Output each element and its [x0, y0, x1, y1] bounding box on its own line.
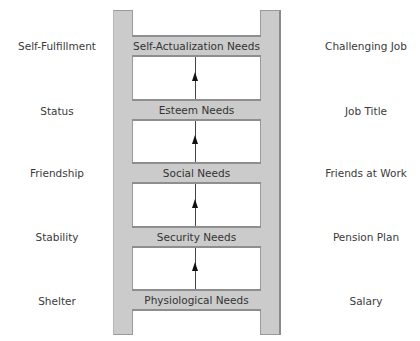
up-arrow-icon — [192, 199, 198, 208]
workplace-example-salary: Salary — [350, 295, 383, 307]
general-example-status: Status — [40, 105, 73, 117]
ladder-left-rail — [113, 10, 133, 335]
up-arrow-icon — [192, 262, 198, 271]
ladder-right-rail — [260, 10, 281, 335]
general-example-friendship: Friendship — [30, 167, 84, 179]
rung-physiological-needs: Physiological Needs — [132, 289, 261, 311]
up-arrow-icon — [192, 135, 198, 144]
up-arrow-icon — [192, 72, 198, 81]
workplace-example-job-title: Job Title — [345, 105, 387, 117]
general-example-stability: Stability — [36, 231, 79, 243]
workplace-example-pension-plan: Pension Plan — [333, 231, 399, 243]
general-example-self-fulfillment: Self-Fulfillment — [18, 40, 96, 52]
rung-security-needs: Security Needs — [132, 226, 261, 248]
rung-esteem-needs: Esteem Needs — [132, 99, 261, 121]
rung-social-needs: Social Needs — [132, 162, 261, 184]
workplace-example-friends-at-work: Friends at Work — [325, 167, 407, 179]
rung-self-actualization-needs: Self-Actualization Needs — [132, 35, 261, 57]
workplace-example-challenging-job: Challenging Job — [325, 40, 407, 52]
general-example-shelter: Shelter — [38, 295, 76, 307]
